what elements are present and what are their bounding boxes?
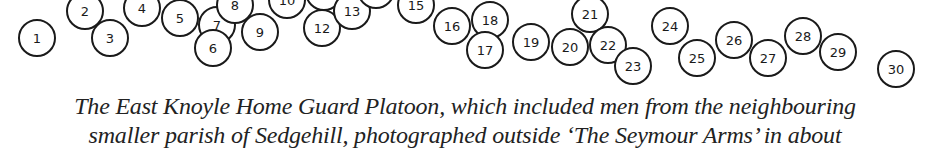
person-marker-20: 20 — [551, 28, 589, 66]
person-marker-23: 23 — [614, 47, 652, 85]
person-marker-5: 5 — [161, 0, 199, 37]
person-marker-10: 10 — [268, 0, 306, 19]
person-marker-3: 3 — [91, 19, 129, 57]
person-marker-27: 27 — [749, 39, 787, 77]
person-marker-15: 15 — [397, 0, 435, 24]
identification-key-diagram: 1234576891011121314151618171921202223242… — [0, 0, 930, 90]
person-marker-24: 24 — [651, 7, 689, 45]
caption-line-1: The East Knoyle Home Guard Platoon, whic… — [0, 92, 930, 121]
person-marker-6: 6 — [194, 29, 232, 67]
person-marker-16: 16 — [433, 7, 471, 45]
person-marker-29: 29 — [819, 33, 857, 71]
person-marker-30: 30 — [877, 50, 915, 88]
caption-line-2: smaller parish of Sedgehill, photographe… — [0, 121, 930, 150]
person-marker-1: 1 — [18, 19, 56, 57]
person-marker-25: 25 — [678, 39, 716, 77]
person-marker-26: 26 — [715, 21, 753, 59]
person-marker-19: 19 — [512, 23, 550, 61]
person-marker-17: 17 — [466, 31, 504, 69]
person-marker-4: 4 — [123, 0, 161, 27]
person-marker-9: 9 — [241, 13, 279, 51]
person-marker-28: 28 — [784, 17, 822, 55]
photo-caption: The East Knoyle Home Guard Platoon, whic… — [0, 92, 930, 150]
